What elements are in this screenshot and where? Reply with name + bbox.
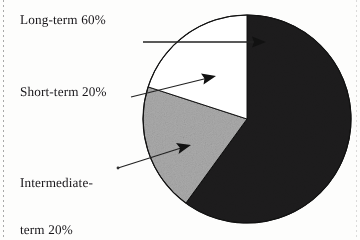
pie-label-intermediate-term: Intermediate- term 20% xyxy=(20,144,93,240)
pie-label-short-term: Short-term 20% xyxy=(20,84,107,100)
pie-label-intermediate-term-line1: Intermediate- xyxy=(20,175,93,191)
pie-label-intermediate-term-line2: term 20% xyxy=(20,222,93,238)
pie-label-long-term: Long-term 60% xyxy=(20,12,106,28)
pie-chart-figure: Long-term 60% Short-term 20% Intermediat… xyxy=(0,0,360,240)
